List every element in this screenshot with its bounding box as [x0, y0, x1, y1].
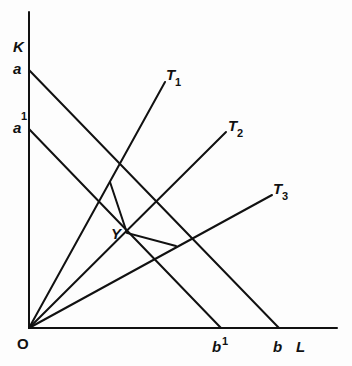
ray-t3-subscript: 3: [282, 190, 288, 202]
k-axis-label: K: [13, 38, 25, 55]
point-a1-superscript: 1: [21, 110, 27, 122]
diagram-svg: K L O a b a 1 b 1 T 1 T 2 T 3 Y: [0, 0, 352, 366]
diagram-canvas: K L O a b a 1 b 1 T 1 T 2 T 3 Y: [0, 0, 352, 366]
ray-t1-subscript: 1: [175, 76, 181, 88]
origin-label: O: [17, 335, 29, 352]
point-y-label: Y: [111, 225, 123, 242]
point-a-label: a: [13, 60, 21, 77]
ray-t2: [29, 132, 226, 328]
point-b1-label: b: [212, 338, 221, 355]
point-b-label: b: [273, 338, 282, 355]
ray-t2-subscript: 2: [237, 127, 243, 139]
point-b1-superscript: 1: [222, 335, 228, 347]
l-axis-label: L: [296, 338, 305, 355]
